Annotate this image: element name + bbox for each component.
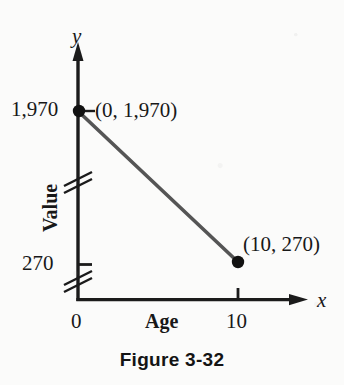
x-axis-variable-label: x	[317, 288, 326, 313]
figure-caption: Figure 3-32	[0, 349, 344, 371]
x-tick-label-10: 10	[226, 309, 247, 334]
x-axis-origin-label: 0	[71, 309, 82, 334]
point-label-0-1970: (0, 1,970)	[95, 98, 177, 123]
y-axis-title: Value	[39, 184, 62, 232]
y-tick-label-270: 270	[22, 251, 54, 276]
figure-panel: y x 1,970 270 Value 0 Age 10 (0, 1,970) …	[0, 0, 344, 385]
y-axis-variable-label: y	[72, 24, 81, 49]
point-label-10-270: (10, 270)	[243, 232, 320, 257]
data-point-marker-10-270	[232, 256, 244, 268]
data-point-marker-0-1970	[73, 105, 85, 117]
x-axis-title: Age	[145, 310, 178, 333]
y-tick-label-1970: 1,970	[11, 97, 58, 122]
depreciation-line	[79, 112, 238, 262]
x-axis-arrowhead	[289, 294, 308, 305]
